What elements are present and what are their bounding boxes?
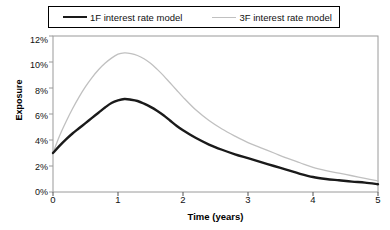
x-axis-ticks [53,192,378,196]
plot-frame [53,36,378,192]
exposure-profile-chart: 1F interest rate model 3F interest rate … [0,0,390,230]
y-axis-ticks [49,36,53,192]
series-line-3f [53,53,378,181]
data-series-layer [53,53,378,184]
plot-area [0,0,390,230]
